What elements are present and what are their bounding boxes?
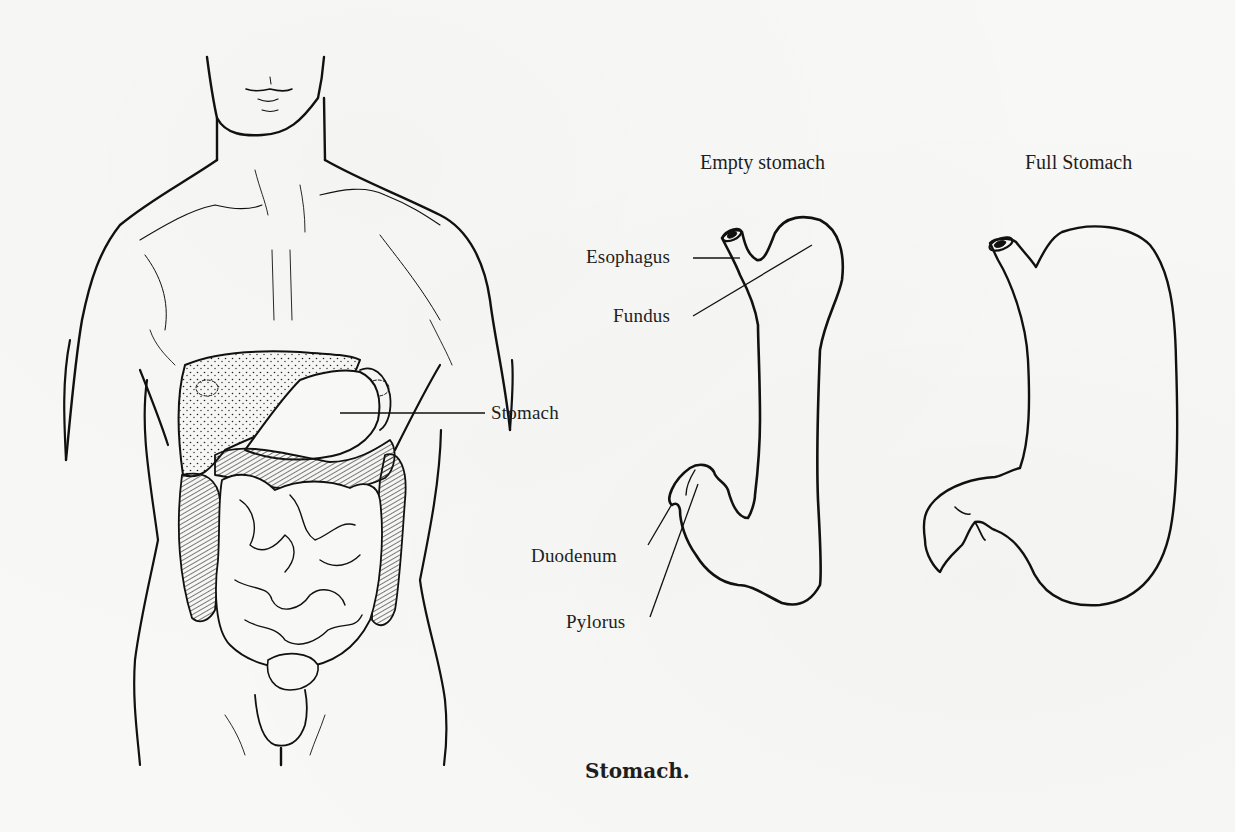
- anatomy-illustration: [0, 0, 1235, 832]
- empty-stomach-drawing: [669, 217, 842, 604]
- genitals: [255, 690, 307, 746]
- figure-page: Stomach Empty stomach Full Stomach Esoph…: [0, 0, 1235, 832]
- title-full-stomach: Full Stomach: [1025, 152, 1132, 172]
- figure-caption: Stomach.: [585, 761, 690, 781]
- label-pylorus: Pylorus: [566, 612, 625, 631]
- title-empty-stomach: Empty stomach: [700, 152, 825, 172]
- small-intestine: [216, 475, 382, 668]
- label-fundus: Fundus: [613, 306, 670, 325]
- full-stomach-drawing: [924, 226, 1177, 605]
- label-stomach-body: Stomach: [491, 403, 559, 422]
- bladder: [267, 654, 318, 690]
- ascending-colon: [179, 474, 221, 622]
- label-esophagus: Esophagus: [586, 247, 670, 266]
- empty-stomach-leader-lines: [648, 245, 812, 617]
- label-duodenum: Duodenum: [531, 546, 617, 565]
